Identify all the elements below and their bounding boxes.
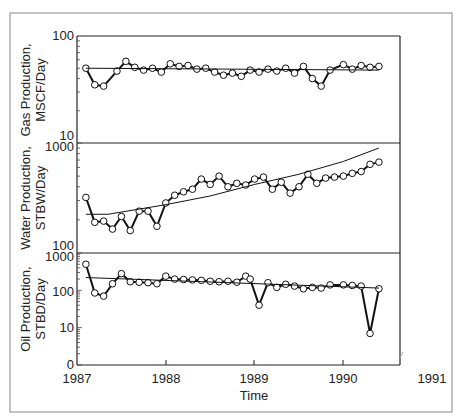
- svg-text:Gas Production,: Gas Production,: [18, 43, 33, 136]
- data-point-marker: [260, 174, 267, 181]
- data-point-marker: [207, 278, 214, 285]
- xtick-1990: 1990: [329, 371, 358, 386]
- production-chart: 100 10 1000 100 1000 100 10 0 Gas Produc…: [0, 0, 459, 420]
- data-point-marker: [318, 83, 325, 90]
- data-point-marker: [291, 70, 298, 77]
- data-point-marker: [358, 168, 365, 175]
- data-point-marker: [207, 181, 214, 188]
- gas-ylabel: Gas Production, MSCF/Day: [18, 43, 48, 136]
- data-point-marker: [180, 189, 187, 196]
- svg-text:STBD/Day: STBD/Day: [33, 278, 48, 340]
- data-point-marker: [376, 63, 383, 70]
- xtick-1989: 1989: [240, 371, 269, 386]
- data-point-marker: [322, 175, 329, 182]
- data-point-marker: [256, 302, 263, 309]
- svg-text:MSCF/Day: MSCF/Day: [33, 58, 48, 122]
- data-point-marker: [127, 227, 134, 234]
- data-point-marker: [83, 194, 90, 201]
- data-point-marker: [167, 60, 174, 67]
- data-point-marker: [247, 67, 254, 74]
- data-point-marker: [358, 62, 365, 69]
- data-point-marker: [376, 285, 383, 292]
- data-point-marker: [100, 218, 107, 225]
- data-point-marker: [265, 279, 272, 286]
- data-point-marker: [171, 276, 178, 283]
- data-point-marker: [358, 283, 365, 290]
- oil-ytick-100: 100: [52, 284, 74, 299]
- data-point-marker: [123, 58, 130, 65]
- water-actual-line: [86, 162, 379, 230]
- data-point-marker: [367, 330, 374, 337]
- data-point-marker: [91, 81, 98, 88]
- oil-ylabel: Oil Production, STBD/Day: [18, 266, 48, 351]
- data-point-marker: [211, 69, 218, 76]
- data-point-marker: [234, 279, 241, 286]
- data-point-marker: [202, 65, 209, 72]
- data-point-marker: [269, 186, 276, 193]
- svg-text:Water Production,: Water Production,: [18, 146, 33, 250]
- data-point-marker: [163, 273, 170, 280]
- data-point-marker: [91, 219, 98, 226]
- data-point-marker: [251, 176, 258, 183]
- data-point-marker: [234, 180, 241, 187]
- data-point-marker: [100, 83, 107, 90]
- data-point-marker: [145, 279, 152, 286]
- data-point-marker: [100, 293, 107, 300]
- series-layer: [83, 58, 383, 337]
- data-point-marker: [140, 67, 147, 74]
- data-point-marker: [340, 61, 347, 68]
- xtick-1987: 1987: [63, 371, 92, 386]
- data-point-marker: [274, 284, 281, 291]
- data-point-marker: [309, 75, 316, 82]
- data-point-marker: [220, 72, 227, 79]
- data-point-marker: [198, 176, 205, 183]
- data-point-marker: [118, 213, 125, 220]
- data-point-marker: [225, 183, 232, 190]
- data-point-marker: [180, 276, 187, 283]
- data-point-marker: [340, 173, 347, 180]
- data-point-marker: [327, 282, 334, 289]
- data-point-marker: [300, 285, 307, 292]
- data-point-marker: [296, 183, 303, 190]
- data-point-marker: [171, 192, 178, 199]
- data-point-marker: [238, 73, 245, 80]
- data-point-marker: [278, 179, 285, 186]
- data-point-marker: [198, 277, 205, 284]
- y-ticks: [77, 41, 82, 365]
- svg-text:Oil Production,: Oil Production,: [18, 266, 33, 351]
- data-point-marker: [291, 283, 298, 290]
- data-point-marker: [349, 66, 356, 73]
- oil-actual-line: [86, 264, 379, 333]
- data-point-marker: [131, 64, 138, 71]
- water-ytick-1000: 1000: [45, 139, 74, 154]
- data-point-marker: [349, 170, 356, 177]
- data-point-marker: [189, 277, 196, 284]
- x-ticks: [166, 360, 343, 365]
- data-point-marker: [109, 226, 116, 233]
- data-point-marker: [145, 208, 152, 215]
- data-point-marker: [287, 190, 294, 197]
- data-point-marker: [158, 69, 165, 76]
- data-point-marker: [109, 280, 116, 287]
- oil-ytick-1000: 1000: [45, 249, 74, 264]
- data-point-marker: [154, 223, 161, 230]
- xtick-1988: 1988: [152, 371, 181, 386]
- data-point-marker: [367, 161, 374, 168]
- data-point-marker: [216, 173, 223, 180]
- gas-ytick-100: 100: [52, 28, 74, 43]
- water-forecast-line: [86, 148, 379, 214]
- data-point-marker: [225, 278, 232, 285]
- oil-ytick-10: 10: [60, 320, 74, 335]
- plot-area: [77, 36, 400, 365]
- data-point-marker: [229, 70, 236, 77]
- data-point-marker: [247, 276, 254, 283]
- data-point-marker: [282, 65, 289, 72]
- data-point-marker: [118, 270, 125, 277]
- svg-text:STBW/Day: STBW/Day: [33, 165, 48, 230]
- data-point-marker: [300, 63, 307, 70]
- data-point-marker: [331, 174, 338, 181]
- data-point-marker: [274, 68, 281, 75]
- oil-ytick-0: 0: [67, 357, 74, 372]
- data-point-marker: [313, 180, 320, 187]
- water-ylabel: Water Production, STBW/Day: [18, 146, 48, 250]
